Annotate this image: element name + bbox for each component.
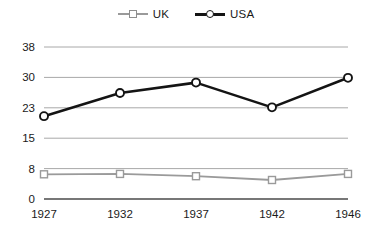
y-axis-tick-label: 0 (29, 193, 35, 205)
data-point-marker-usa[interactable] (192, 79, 200, 87)
y-axis-tick-labels: 0815233038 (22, 41, 35, 205)
data-point-marker-uk[interactable] (117, 170, 124, 177)
plot-area: 0815233038 19271932193719421946 (0, 0, 372, 234)
data-point-marker-uk[interactable] (269, 177, 276, 184)
line-chart: UK USA 0815233038 19271932193719421946 (0, 0, 372, 234)
data-point-marker-usa[interactable] (116, 89, 124, 97)
data-point-marker-usa[interactable] (268, 103, 276, 111)
data-point-marker-uk[interactable] (41, 171, 48, 178)
series-uk (41, 170, 352, 183)
x-axis-tick-labels: 19271932193719421946 (31, 208, 361, 220)
y-axis-tick-label: 15 (22, 132, 35, 144)
x-axis-tick-label: 1927 (31, 208, 57, 220)
x-axis-tick-label: 1942 (259, 208, 285, 220)
y-axis-tick-label: 38 (22, 41, 35, 53)
data-point-marker-usa[interactable] (40, 112, 48, 120)
data-point-marker-uk[interactable] (193, 173, 200, 180)
data-point-marker-usa[interactable] (344, 74, 352, 82)
chart-canvas: 0815233038 19271932193719421946 (0, 0, 372, 234)
data-point-marker-uk[interactable] (345, 170, 352, 177)
y-axis-tick-label: 23 (22, 102, 35, 114)
x-axis-tick-label: 1946 (335, 208, 361, 220)
x-axis-tick-label: 1932 (107, 208, 133, 220)
y-axis-tick-label: 8 (29, 163, 35, 175)
y-axis-tick-label: 30 (22, 71, 35, 83)
x-axis-tick-label: 1937 (183, 208, 209, 220)
series-usa (40, 74, 352, 120)
